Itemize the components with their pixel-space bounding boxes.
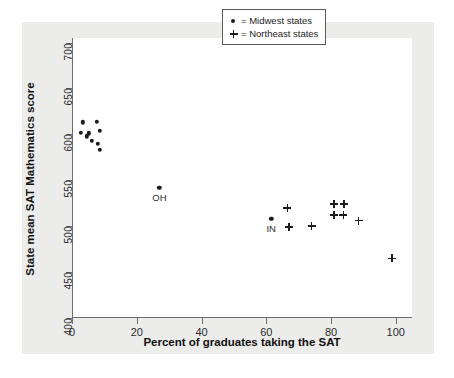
x-tick-mark	[266, 318, 267, 324]
legend-item-midwest: = Midwest states	[229, 14, 318, 27]
x-tick-label: 0	[69, 326, 75, 338]
data-point-dot	[85, 134, 89, 138]
y-tick-label: 600	[64, 134, 75, 152]
x-tick-mark	[396, 318, 397, 324]
x-tick-label: 60	[260, 326, 272, 338]
x-tick-mark	[202, 318, 203, 324]
data-point-plus	[330, 211, 338, 219]
legend-item-northeast: = Northeast states	[229, 27, 318, 40]
data-point-dot	[90, 139, 94, 143]
point-label-oh: OH	[152, 192, 166, 203]
data-point-dot	[98, 148, 102, 152]
data-point-plus	[283, 204, 291, 212]
x-tick-label: 40	[195, 326, 207, 338]
x-tick-mark	[331, 318, 332, 324]
data-point-plus	[388, 254, 396, 262]
legend-label-northeast: = Northeast states	[241, 27, 318, 40]
y-axis-title: State mean SAT Mathematics score	[22, 40, 38, 318]
point-label-in: IN	[266, 223, 276, 234]
legend-label-midwest: = Midwest states	[241, 14, 312, 27]
x-tick-mark	[72, 318, 73, 324]
data-point-plus	[285, 223, 293, 231]
data-point-dot	[95, 119, 99, 123]
x-tick-label: 100	[387, 326, 405, 338]
data-point-dot	[98, 129, 102, 133]
x-tick-mark	[137, 318, 138, 324]
x-axis-title: Percent of graduates taking the SAT	[72, 336, 412, 348]
data-point-dot	[81, 120, 85, 124]
data-point-plus	[340, 200, 348, 208]
data-point-dot	[96, 141, 100, 145]
x-tick-label: 20	[131, 326, 143, 338]
x-tick-label: 80	[325, 326, 337, 338]
y-tick-label: 550	[64, 180, 75, 198]
y-tick-label: 500	[64, 226, 75, 244]
data-point-plus	[308, 222, 316, 230]
dot-marker-icon	[229, 15, 240, 26]
plot-area: 400450500550600650700 020406080100 OHIN	[72, 38, 412, 318]
y-tick-label: 650	[64, 88, 75, 106]
data-point-plus	[355, 217, 363, 225]
y-axis-title-text: State mean SAT Mathematics score	[24, 82, 36, 275]
legend: = Midwest states = Northeast states	[222, 9, 326, 45]
scatter-plot-figure: State mean SAT Mathematics score Percent…	[0, 0, 454, 378]
data-point-plus	[330, 200, 338, 208]
data-point-dot	[157, 185, 161, 189]
data-point-dot	[269, 217, 273, 221]
plus-marker-icon	[229, 28, 240, 39]
y-tick-label: 700	[64, 43, 75, 61]
data-point-plus	[339, 211, 347, 219]
y-tick-label: 450	[64, 272, 75, 290]
data-point-dot	[79, 130, 83, 134]
